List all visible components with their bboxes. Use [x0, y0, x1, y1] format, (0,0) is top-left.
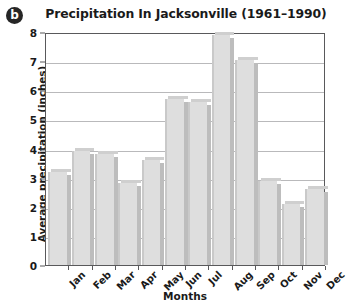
x-axis-tick-mark: [302, 266, 303, 270]
bar-face: [258, 181, 277, 265]
x-axis-tick-mark: [208, 266, 209, 270]
bar-top: [51, 169, 71, 172]
x-axis-title: Months: [45, 290, 325, 302]
bar-side: [207, 105, 211, 265]
y-axis-tick-label: 8: [9, 27, 37, 39]
y-axis-tick-label: 0: [9, 260, 37, 272]
plot-area: [45, 33, 325, 266]
y-axis-tick-label: 5: [9, 114, 37, 126]
x-axis-tick-label: Apr: [137, 269, 159, 291]
bar: [212, 35, 231, 265]
y-axis-tick-label: 1: [9, 231, 37, 243]
bar-side: [184, 102, 188, 265]
y-axis-tick-label: 6: [9, 85, 37, 97]
bar-face: [118, 183, 137, 265]
bar-side: [277, 184, 281, 265]
bar-side: [300, 207, 304, 265]
bar-side: [137, 186, 141, 265]
bar-top: [168, 96, 188, 99]
bar-series: [46, 34, 324, 265]
x-axis-tick-label: Mar: [115, 269, 138, 292]
x-axis-tick-mark: [92, 266, 93, 270]
bar-face: [188, 102, 207, 265]
bar-face: [95, 154, 114, 265]
x-axis-tick-label: Feb: [91, 269, 113, 291]
bar-side: [324, 192, 328, 265]
x-axis-tick-mark: [255, 266, 256, 270]
x-axis-tick-label: Dec: [324, 269, 347, 292]
bar-top: [238, 57, 258, 60]
bar-face: [72, 151, 91, 265]
y-axis-tick-label: 3: [9, 173, 37, 185]
bar: [95, 154, 114, 265]
bar: [165, 99, 184, 265]
bar: [48, 172, 67, 265]
y-axis-tick-label: 4: [9, 144, 37, 156]
x-axis-tick-mark: [162, 266, 163, 270]
x-axis-tick-mark: [185, 266, 186, 270]
x-axis-tick-mark: [138, 266, 139, 270]
bar: [188, 102, 207, 265]
y-axis-tick-label: 7: [9, 56, 37, 68]
bar: [282, 204, 301, 265]
y-axis-tick-label: 2: [9, 202, 37, 214]
chart-title: Precipitation In Jacksonville (1961–1990…: [40, 6, 332, 21]
x-axis-tick-label: Nov: [301, 269, 324, 292]
bar-top: [75, 148, 95, 151]
bar-side: [114, 157, 118, 265]
bar: [305, 189, 324, 265]
x-axis-tick-mark: [115, 266, 116, 270]
bar-side: [254, 63, 258, 265]
bar-face: [282, 204, 301, 265]
bar-face: [48, 172, 67, 265]
bar-side: [90, 154, 94, 265]
y-axis: 012345678: [0, 0, 45, 307]
bar-face: [235, 60, 254, 265]
bar-top: [121, 180, 141, 183]
x-axis-tick-label: Sep: [255, 269, 278, 292]
x-axis-tick-mark: [325, 266, 326, 270]
bar-side: [230, 38, 234, 265]
bar-top: [261, 178, 281, 181]
bar-top: [215, 32, 235, 35]
x-axis-tick-label: Oct: [277, 269, 298, 290]
bar-top: [308, 186, 328, 189]
bar-top: [145, 157, 165, 160]
bar-face: [212, 35, 231, 265]
bar: [258, 181, 277, 265]
x-axis-tick-label: Jul: [206, 269, 224, 287]
bar-top: [98, 151, 118, 154]
bar: [118, 183, 137, 265]
bar-face: [305, 189, 324, 265]
bar-side: [67, 175, 71, 265]
bar-side: [160, 163, 164, 265]
x-axis-tick-mark: [278, 266, 279, 270]
bar: [235, 60, 254, 265]
bar-face: [165, 99, 184, 265]
bar: [142, 160, 161, 265]
x-axis-tick-mark: [68, 266, 69, 270]
x-axis-tick-label: Jun: [184, 269, 204, 289]
bar: [72, 151, 91, 265]
bar-top: [285, 201, 305, 204]
x-axis-tick-mark: [232, 266, 233, 270]
bar-top: [191, 99, 211, 102]
x-axis-tick-label: Jan: [67, 269, 87, 289]
x-axis-tick-label: Aug: [231, 269, 254, 292]
bar-face: [142, 160, 161, 265]
